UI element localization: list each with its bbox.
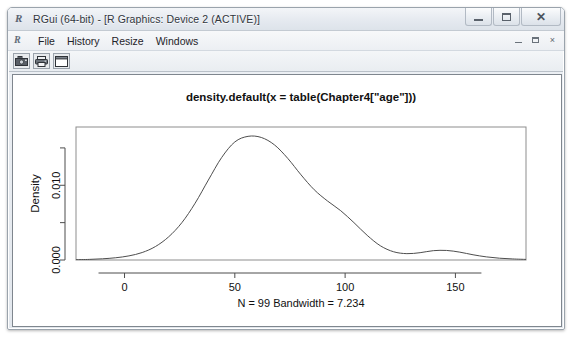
r-logo-small-glyph: R (14, 34, 21, 46)
x-axis-tick-label: 0 (121, 281, 127, 293)
menu-item-resize[interactable]: Resize (106, 33, 150, 49)
blank-window-button[interactable] (53, 53, 70, 69)
mdi-minimize-icon (515, 42, 522, 43)
density-plot: density.default(x = table(Chapter4["age"… (13, 75, 561, 326)
y-axis-tick-label: 0.010 (50, 172, 62, 200)
menu-item-history[interactable]: History (61, 33, 106, 49)
window-controls: ✕ (465, 8, 561, 26)
copy-to-clipboard-button[interactable] (13, 53, 30, 69)
close-button[interactable]: ✕ (521, 8, 561, 26)
chart-title: density.default(x = table(Chapter4["age"… (186, 91, 416, 103)
mdi-window-controls: × (511, 33, 560, 47)
mdi-restore-button[interactable] (528, 33, 543, 47)
minimize-icon (474, 19, 483, 21)
chart-subtitle: N = 99 Bandwidth = 7.234 (237, 297, 364, 309)
app-icon: R (15, 13, 28, 26)
mdi-child-icon[interactable]: R (14, 35, 26, 47)
camera-icon (15, 56, 28, 66)
window-icon (55, 56, 68, 67)
minimize-button[interactable] (465, 8, 492, 26)
menu-bar: R File History Resize Windows × (8, 31, 564, 51)
y-axis-label: Density (29, 174, 41, 213)
r-logo-glyph: R (15, 12, 22, 25)
print-button[interactable] (33, 53, 50, 69)
maximize-icon (502, 13, 511, 21)
menu-item-windows[interactable]: Windows (150, 33, 205, 49)
menu-item-file[interactable]: File (32, 33, 61, 49)
plot-frame (76, 127, 526, 260)
window-title: RGui (64-bit) - [R Graphics: Device 2 (A… (33, 13, 260, 25)
printer-icon (35, 56, 48, 67)
density-curve (76, 136, 526, 260)
y-axis-tick-label: 0.000 (50, 246, 62, 274)
x-axis-tick-label: 150 (446, 281, 464, 293)
mdi-close-icon: × (550, 36, 555, 45)
close-icon: ✕ (536, 11, 546, 23)
graphics-device-canvas[interactable]: density.default(x = table(Chapter4["age"… (12, 74, 562, 327)
mdi-restore-icon (532, 37, 539, 43)
x-axis-tick-label: 50 (229, 281, 241, 293)
title-bar[interactable]: R RGui (64-bit) - [R Graphics: Device 2 … (8, 8, 564, 31)
rgui-main-window: R RGui (64-bit) - [R Graphics: Device 2 … (7, 7, 565, 330)
mdi-minimize-button[interactable] (511, 33, 526, 47)
mdi-close-button[interactable]: × (545, 33, 560, 47)
x-axis-tick-label: 100 (336, 281, 354, 293)
maximize-button[interactable] (493, 8, 520, 26)
toolbar (8, 51, 564, 72)
